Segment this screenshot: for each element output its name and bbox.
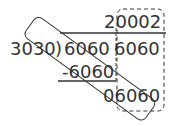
division-bracket: ) — [55, 38, 62, 59]
division-canvas: 20002 3030 ) 6060 6060 -6060 06060 — [0, 0, 177, 126]
divisor: 3030 — [10, 38, 56, 59]
remainder: 06060 — [103, 85, 160, 106]
dividend-right: 6060 — [114, 38, 160, 59]
long-division-diagram: 20002 3030 ) 6060 6060 -6060 06060 — [0, 0, 177, 126]
quotient: 20002 — [104, 11, 161, 32]
subtraction-line: -6060 — [62, 61, 114, 82]
dividend-left: 6060 — [64, 38, 110, 59]
